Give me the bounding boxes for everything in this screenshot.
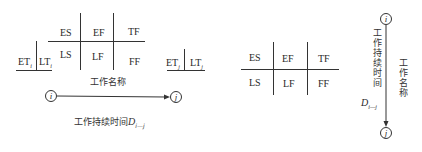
duration-symbol: Di—j (361, 98, 377, 112)
duration-label-vertical: 工作持续时间 (372, 28, 382, 88)
right-arrow (0, 0, 422, 152)
arrowhead-icon (384, 121, 389, 127)
work-name-label-vertical: 工作名称 (398, 58, 408, 98)
